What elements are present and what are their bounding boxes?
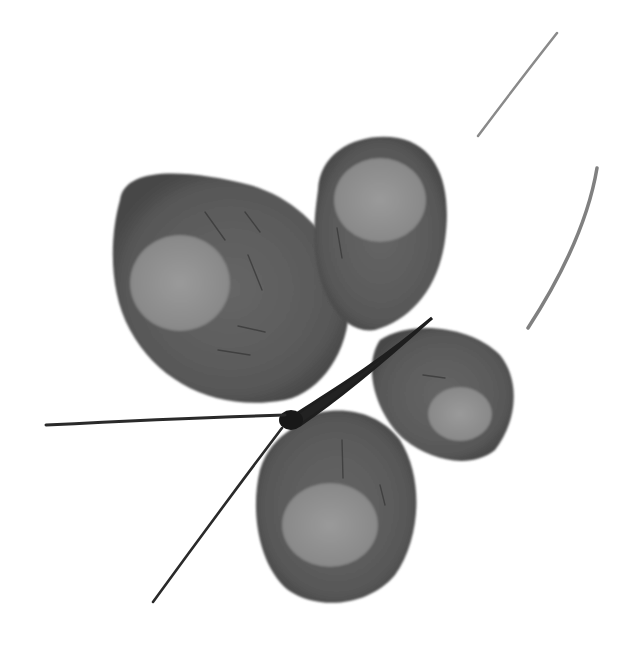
antenna-left <box>46 415 285 425</box>
wing-upper-left <box>113 174 349 403</box>
brush-stroke-top <box>478 33 557 136</box>
wing-lower <box>256 411 417 603</box>
brush-stroke-right <box>528 168 597 328</box>
wing-upper-right <box>314 137 447 331</box>
butterfly-painting <box>0 0 626 660</box>
